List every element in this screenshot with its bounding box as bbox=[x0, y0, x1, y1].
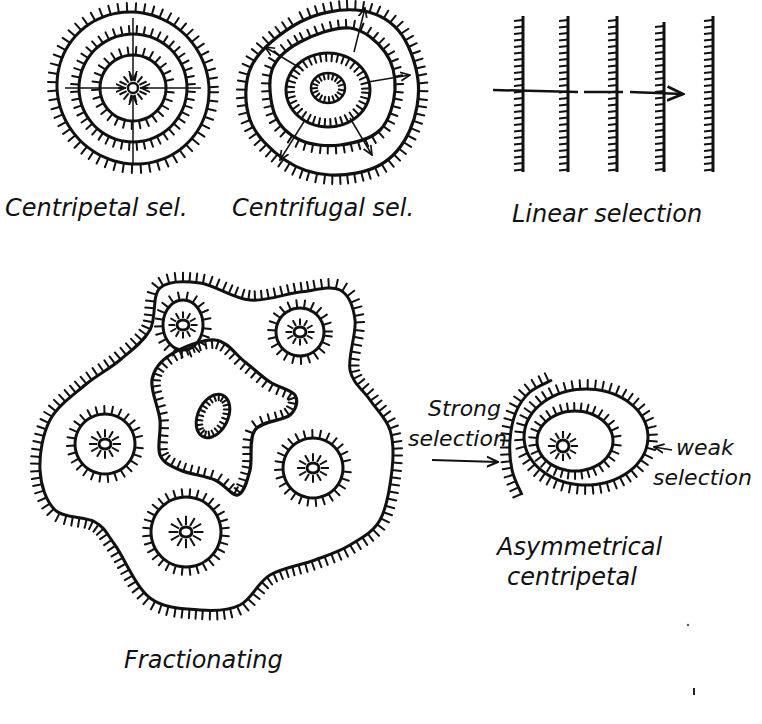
label-weak: weak bbox=[676, 435, 735, 460]
core bbox=[557, 440, 569, 452]
centripetal-selection-diagram bbox=[48, 3, 218, 173]
label-asymmetrical: Asymmetrical bbox=[495, 533, 662, 561]
selection-types-diagram: Centripetal sel. Centrifugal sel. Linear… bbox=[0, 0, 762, 724]
strong-selection-arrow bbox=[432, 460, 498, 462]
ring-3 bbox=[286, 53, 370, 127]
sub-center-core-5 bbox=[180, 527, 192, 537]
label-centrifugal: Centrifugal sel. bbox=[232, 194, 414, 222]
tick-marks bbox=[268, 300, 332, 364]
tick-marks bbox=[529, 403, 621, 479]
sub-center-spokes-2 bbox=[286, 319, 315, 346]
label-linear: Linear selection bbox=[512, 200, 702, 228]
sub-center-core-1 bbox=[177, 320, 189, 330]
arrow-out-right bbox=[368, 75, 410, 82]
scan-speck bbox=[693, 688, 695, 695]
tick-marks bbox=[262, 20, 403, 154]
ring-2 bbox=[537, 411, 613, 471]
tick-marks bbox=[152, 340, 296, 495]
selection-arrow-head bbox=[630, 92, 683, 94]
sub-center-ring-5 bbox=[151, 497, 221, 567]
label-fractionating: Fractionating bbox=[124, 646, 283, 674]
tick-marks bbox=[275, 430, 351, 506]
label-centripetal-2: centripetal bbox=[507, 563, 637, 591]
scan-speck bbox=[687, 624, 689, 626]
centrifugal-selection-diagram bbox=[237, 1, 428, 184]
tick-marks bbox=[143, 489, 229, 575]
label-strong: Strong bbox=[428, 396, 501, 421]
core-spokes bbox=[548, 431, 578, 461]
fractionating-selection-diagram bbox=[31, 273, 402, 620]
selection-arrow-segment bbox=[493, 90, 578, 92]
sub-center-spokes-5 bbox=[169, 516, 204, 548]
sub-center-spokes-4 bbox=[297, 453, 329, 483]
tick-marks bbox=[67, 406, 143, 482]
sub-center-spokes-1 bbox=[169, 312, 198, 339]
center-core bbox=[128, 83, 138, 93]
sub-center-spokes-3 bbox=[89, 429, 121, 459]
weak-selection-arrow bbox=[654, 447, 672, 450]
label-centripetal: Centripetal sel. bbox=[5, 194, 188, 222]
tick-marks bbox=[196, 394, 230, 437]
label-strong-selection: selection bbox=[408, 426, 507, 451]
label-weak-selection: selection bbox=[653, 465, 752, 490]
sub-center-core-2 bbox=[294, 327, 306, 337]
linear-selection-diagram bbox=[493, 16, 713, 172]
sub-center-core-4 bbox=[307, 463, 319, 473]
sub-center-core-3 bbox=[99, 439, 111, 449]
tick-marks bbox=[31, 273, 402, 620]
